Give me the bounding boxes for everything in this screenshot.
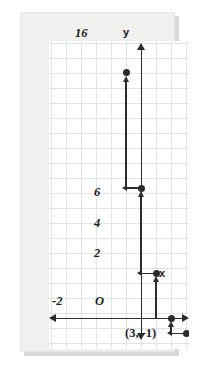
- x-axis-arrow-left: [49, 314, 56, 322]
- plot-area: [49, 41, 189, 349]
- step-segment-1: [125, 82, 127, 186]
- step-segment-3: [155, 282, 157, 318]
- y-tick-label-4: 4: [94, 217, 100, 230]
- connector-3-arrow: [167, 330, 172, 336]
- endpoint-dot-2: [138, 185, 145, 192]
- endpoint-dot-4: [168, 315, 175, 322]
- step-segment-1-arrow: [123, 76, 129, 82]
- grid: [49, 41, 189, 349]
- x-tick-label-neg2: -2: [52, 295, 62, 308]
- y-axis-arrow-up: [137, 43, 145, 50]
- endpoint-dot-5: [183, 330, 190, 337]
- x-axis-label: x: [159, 268, 165, 279]
- y-tick-label-6: 6: [94, 186, 100, 199]
- point-annotation: (3, -1): [125, 327, 156, 340]
- y-tick-label-2: 2: [94, 247, 100, 260]
- step-segment-2-arrow: [138, 191, 144, 197]
- y-tick-label-16: 16: [75, 27, 88, 40]
- y-axis-label: y: [123, 27, 129, 38]
- x-axis: [55, 318, 183, 320]
- endpoint-dot-1: [123, 69, 130, 76]
- x-axis-arrow-right: [182, 314, 189, 322]
- figure-canvas: 16 6 4 2 -2 O x y (3, -1): [0, 0, 199, 379]
- connector-2-arrow: [137, 270, 142, 276]
- origin-label: O: [95, 295, 104, 308]
- connector-1-arrow: [122, 185, 127, 191]
- step-segment-2: [140, 197, 142, 273]
- graph-card: 16 6 4 2 -2 O x y (3, -1): [20, 12, 175, 352]
- step-segment-4-arrow: [168, 321, 174, 327]
